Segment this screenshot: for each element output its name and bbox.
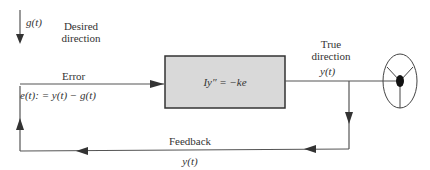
desired-direction-label: Desired direction (56, 20, 106, 44)
desired-direction-line1: Desired (56, 20, 106, 32)
true-direction-label: True direction (296, 38, 366, 62)
feedback-arrowhead-right (304, 145, 316, 153)
error-title-label: Error (62, 70, 85, 82)
input-signal-label: g(t) (26, 16, 42, 28)
input-arrowhead (16, 34, 24, 44)
true-direction-line2: direction (296, 50, 366, 62)
feedback-bottom-line (20, 149, 349, 151)
feedback-signal-label: y(t) (170, 155, 210, 167)
output-signal-label: y(t) (320, 65, 335, 77)
feedback-arrowhead-left (76, 147, 88, 155)
true-direction-line1: True (296, 38, 366, 50)
feedback-title-label: Feedback (150, 135, 230, 147)
feedback-up-arrowhead (16, 118, 24, 130)
error-equation-label: e(t): = y(t) − g(t) (20, 89, 96, 101)
feedback-down-arrowhead (345, 112, 353, 124)
block-equation-label: Iy″ = −ke (165, 76, 285, 88)
desired-direction-line2: direction (56, 32, 106, 44)
error-arrowhead (150, 80, 164, 88)
steering-wheel-hub (396, 75, 404, 87)
